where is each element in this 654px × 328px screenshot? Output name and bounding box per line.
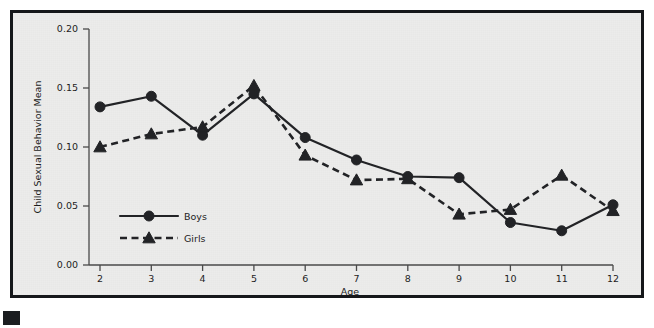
x-tick-label: 3	[148, 273, 154, 284]
series-boys	[95, 89, 618, 236]
data-point-marker-triangle	[350, 174, 362, 185]
data-point-marker-circle	[146, 91, 156, 101]
legend-label: Girls	[184, 233, 206, 244]
x-tick-label: 2	[97, 273, 103, 284]
y-axis: 0.000.050.100.150.20 Child Sexual Behavi…	[32, 23, 90, 270]
y-tick-label: 0.20	[57, 23, 78, 34]
x-tick-label: 4	[200, 273, 206, 284]
x-axis-ticks: 23456789101112	[97, 265, 619, 284]
legend-item-boys[interactable]: Boys	[120, 211, 207, 222]
x-tick-label: 6	[302, 273, 308, 284]
data-point-marker-triangle	[145, 128, 157, 139]
legend-label: Boys	[184, 211, 207, 222]
series-line	[100, 86, 613, 215]
x-axis: 23456789101112 Age	[89, 265, 619, 297]
data-point-marker-circle	[144, 211, 154, 221]
x-tick-label: 7	[353, 273, 359, 284]
y-axis-ticks: 0.000.050.100.150.20	[57, 23, 89, 270]
data-point-marker-circle	[352, 155, 362, 165]
data-series-layer	[94, 79, 619, 235]
series-girls	[94, 79, 619, 219]
data-point-marker-circle	[454, 173, 464, 183]
y-tick-label: 0.15	[57, 82, 78, 93]
x-tick-label: 11	[556, 273, 568, 284]
data-point-marker-circle	[557, 226, 567, 236]
figure-container: 0.000.050.100.150.20 Child Sexual Behavi…	[0, 0, 654, 328]
data-point-marker-triangle	[248, 79, 260, 90]
data-point-marker-triangle	[196, 121, 208, 132]
y-axis-title: Child Sexual Behavior Mean	[32, 81, 43, 214]
legend-item-girls[interactable]: Girls	[120, 232, 206, 244]
chart-legend: BoysGirls	[120, 211, 207, 244]
y-tick-label: 0.10	[57, 141, 78, 152]
x-axis-title: Age	[341, 286, 360, 297]
x-tick-label: 8	[405, 273, 411, 284]
x-tick-label: 10	[504, 273, 516, 284]
line-chart: 0.000.050.100.150.20 Child Sexual Behavi…	[10, 10, 644, 298]
y-tick-label: 0.05	[57, 200, 78, 211]
x-tick-label: 9	[456, 273, 462, 284]
x-tick-label: 5	[251, 273, 257, 284]
y-tick-label: 0.00	[57, 259, 78, 270]
data-point-marker-circle	[505, 218, 515, 228]
data-point-marker-triangle	[299, 149, 311, 160]
data-point-marker-triangle	[556, 169, 568, 180]
data-point-marker-circle	[300, 133, 310, 143]
data-point-marker-circle	[95, 102, 105, 112]
x-tick-label: 12	[607, 273, 619, 284]
page-scan-artifact	[3, 311, 20, 325]
